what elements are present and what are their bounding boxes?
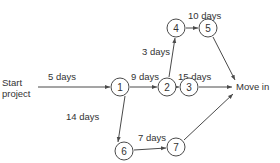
node-6-label: 6 xyxy=(121,146,127,157)
node-6: 6 xyxy=(115,142,133,160)
edge-7-movein xyxy=(184,94,233,140)
edge-1-6 xyxy=(118,96,125,142)
node-7-label: 7 xyxy=(173,142,179,153)
project-network-diagram: 5 days 9 days 14 days 3 days 15 days 10 … xyxy=(0,0,280,163)
end-label: Move in xyxy=(236,81,269,92)
edge-label-start-1: 5 days xyxy=(48,71,76,82)
edge-6-7 xyxy=(134,148,166,150)
edge-2-4 xyxy=(169,38,175,77)
node-3-label: 3 xyxy=(186,82,192,93)
node-5: 5 xyxy=(199,19,217,37)
node-1-label: 1 xyxy=(117,82,123,93)
edge-5-movein xyxy=(213,37,235,80)
edge-label-1-6: 14 days xyxy=(66,111,100,122)
node-2-label: 2 xyxy=(164,82,170,93)
node-5-label: 5 xyxy=(205,23,211,34)
edge-label-2-4: 3 days xyxy=(142,46,170,57)
start-label-line1: Start xyxy=(2,77,22,88)
node-3: 3 xyxy=(180,78,198,96)
node-4: 4 xyxy=(167,19,185,37)
node-2: 2 xyxy=(158,78,176,96)
node-7: 7 xyxy=(167,138,185,156)
start-label-line2: project xyxy=(2,88,31,99)
edge-label-1-2: 9 days xyxy=(131,71,159,82)
node-4-label: 4 xyxy=(173,23,179,34)
edge-label-6-7: 7 days xyxy=(138,132,166,143)
node-1: 1 xyxy=(111,78,129,96)
